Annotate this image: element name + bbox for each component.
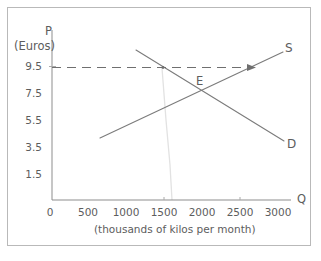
x-tick-label-3000: 3000 <box>261 207 295 218</box>
x-tick-label-500: 500 <box>71 207 105 218</box>
demand-curve <box>136 50 284 141</box>
y-axis-title: P <box>45 26 52 38</box>
y-tick-label-9-5: 9.5 <box>16 61 42 72</box>
y-tick-label-3-5: 3.5 <box>16 142 42 153</box>
x-axis-caption: (thousands of kilos per month) <box>94 224 256 235</box>
y-tick-label-7-5: 7.5 <box>16 88 42 99</box>
x-tick-label-1500: 1500 <box>147 207 181 218</box>
supply-curve <box>100 52 283 138</box>
quantity-guide-line <box>162 68 172 200</box>
dashed-line-demand-marker <box>162 66 165 69</box>
supply-curve-label: S <box>285 42 293 54</box>
x-tick-label-2000: 2000 <box>185 207 219 218</box>
y-axis-unit-label: (Euros) <box>14 41 55 53</box>
x-tick-label-1000: 1000 <box>109 207 143 218</box>
equilibrium-point-label: E <box>196 76 203 88</box>
chart-figure: P (Euros) 9.5 7.5 5.5 3.5 1.5 0 500 1000… <box>0 0 321 261</box>
x-axis-title: Q <box>297 194 306 206</box>
y-tick-label-5-5: 5.5 <box>16 115 42 126</box>
x-tick-label-2500: 2500 <box>223 207 257 218</box>
demand-curve-label: D <box>287 138 296 150</box>
y-tick-label-1-5: 1.5 <box>16 169 42 180</box>
x-tick-label-0: 0 <box>33 207 67 218</box>
